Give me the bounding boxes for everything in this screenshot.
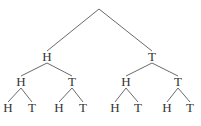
heads-node-label: H bbox=[121, 74, 130, 89]
tree-edge bbox=[47, 9, 99, 51]
tails-node-label: T bbox=[68, 74, 76, 89]
heads-node-label: H bbox=[3, 100, 12, 115]
tree-labels: HTHTHTHTHTHTHT bbox=[3, 49, 194, 115]
tree-edges bbox=[8, 9, 190, 102]
heads-node-label: H bbox=[42, 49, 51, 64]
heads-node-label: H bbox=[54, 100, 63, 115]
tails-node-label: T bbox=[28, 100, 36, 115]
heads-node-label: H bbox=[162, 100, 171, 115]
heads-node-label: H bbox=[16, 74, 25, 89]
heads-node-label: H bbox=[110, 100, 119, 115]
tails-node-label: T bbox=[174, 74, 182, 89]
tails-node-label: T bbox=[186, 100, 194, 115]
coin-toss-tree: HTHTHTHTHTHTHT bbox=[0, 0, 201, 126]
tails-node-label: T bbox=[134, 100, 142, 115]
tree-edge bbox=[99, 9, 152, 51]
tails-node-label: T bbox=[148, 49, 156, 64]
tails-node-label: T bbox=[79, 100, 87, 115]
